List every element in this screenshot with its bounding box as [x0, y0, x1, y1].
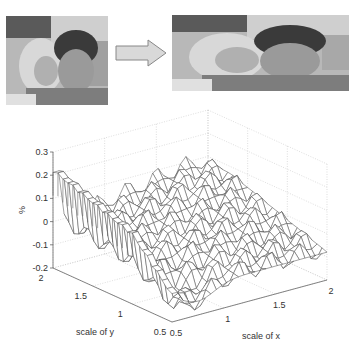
tick-label: 1 — [118, 309, 123, 319]
arrow-right-icon — [114, 38, 168, 68]
original-photo — [6, 16, 108, 105]
tick-label: 1.5 — [74, 291, 87, 301]
z-axis-label: % — [17, 206, 27, 214]
tick-label: 0 — [43, 217, 48, 227]
tick-label: 2 — [38, 273, 43, 283]
resized-photo — [172, 15, 349, 91]
tick-label: 0.5 — [154, 327, 167, 337]
tick-label: -0.1 — [32, 240, 48, 250]
x-axis-label: scale of x — [242, 331, 281, 341]
surface-plot: -0.2-0.100.10.20.30.511.520.511.52 % sca… — [0, 95, 359, 353]
resized-photo-image — [172, 15, 349, 91]
tick-label: -0.2 — [32, 263, 48, 273]
tick-label: 0.1 — [35, 193, 48, 203]
tick-label: 2 — [328, 286, 333, 296]
tick-label: 0.2 — [35, 170, 48, 180]
y-axis-label: scale of y — [76, 327, 115, 337]
tick-label: 1 — [225, 314, 230, 324]
tick-label: 0.5 — [170, 328, 183, 338]
original-photo-image — [6, 16, 108, 105]
tick-label: 0.3 — [35, 147, 48, 157]
tick-label: 1.5 — [273, 300, 286, 310]
